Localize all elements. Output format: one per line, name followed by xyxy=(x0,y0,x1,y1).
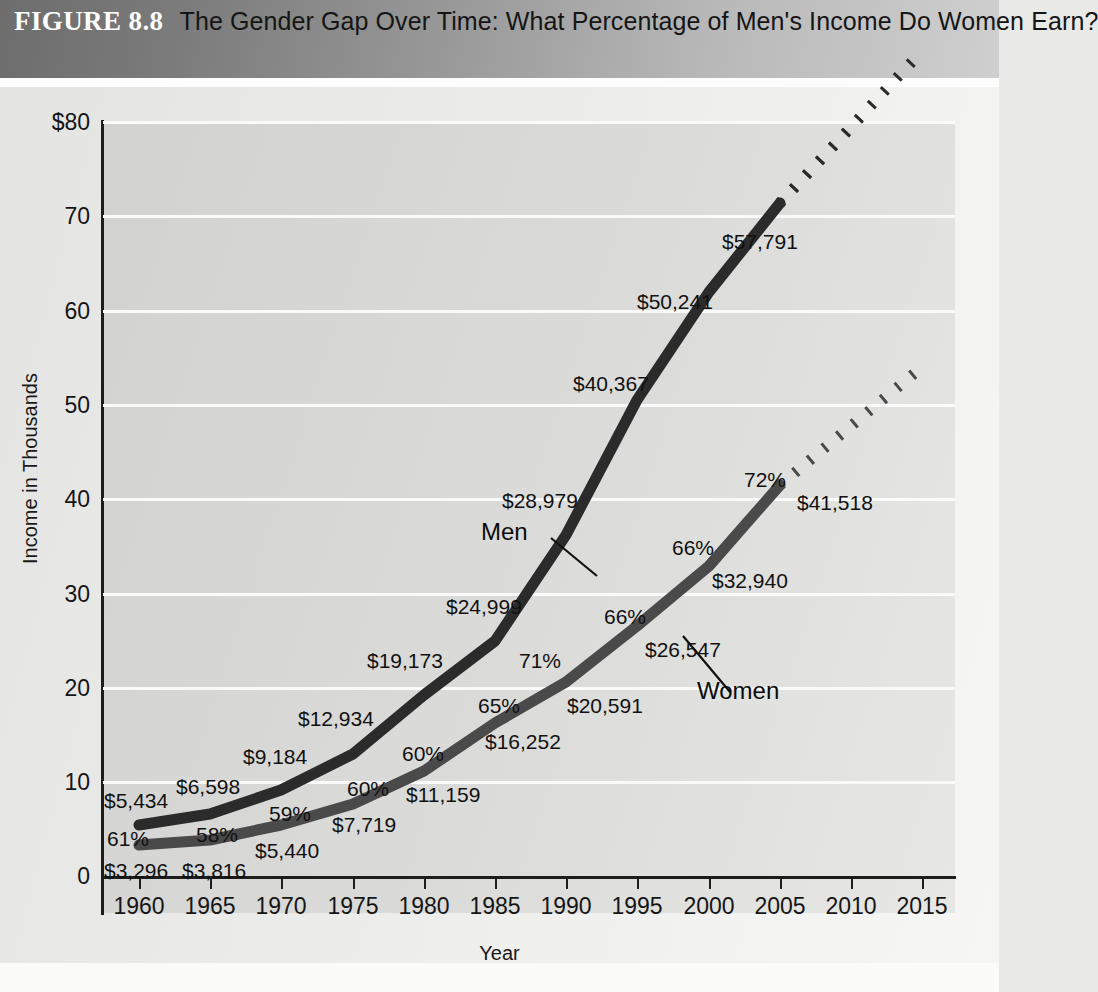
men-value-label-1960: $5,434 xyxy=(104,789,168,813)
figure-header-text: FIGURE 8.8The Gender Gap Over Time: What… xyxy=(14,4,985,38)
women-value-label-1985: $16,252 xyxy=(485,730,561,754)
percent-label-1960: 61% xyxy=(107,827,149,851)
men-value-label-2005: $57,791 xyxy=(722,230,798,254)
men-value-label-1970: $9,184 xyxy=(243,745,307,769)
women-value-label-1960: $3,296 xyxy=(104,859,168,883)
series-label-men: Men xyxy=(481,518,528,546)
men-value-label-1965: $6,598 xyxy=(176,775,240,799)
women-value-label-2000: $32,940 xyxy=(712,569,788,593)
percent-label-1995: 66% xyxy=(604,605,646,629)
men-value-label-1980: $19,173 xyxy=(367,649,443,673)
women-value-label-2005: $41,518 xyxy=(797,491,873,515)
percent-label-1975: 60% xyxy=(347,777,389,801)
series-label-women: Women xyxy=(697,677,779,705)
men-value-label-2000: $50,241 xyxy=(637,290,713,314)
percent-label-1990: 71% xyxy=(519,649,561,673)
figure-number: FIGURE 8.8 xyxy=(14,6,164,36)
men-value-label-1995: $40,367 xyxy=(573,372,649,396)
women-value-label-1980: $11,159 xyxy=(406,783,480,807)
men-value-label-1985: $24,999 xyxy=(446,595,522,619)
women-value-label-1970: $5,440 xyxy=(255,839,319,863)
percent-label-1980: 60% xyxy=(402,742,444,766)
chart-body: $80 70 60 50 40 30 20 10 0 1960 1965 197… xyxy=(0,87,999,992)
percent-label-2005: 72% xyxy=(744,468,786,492)
figure-title: The Gender Gap Over Time: What Percentag… xyxy=(180,7,1098,35)
figure-bottom-margin xyxy=(0,963,999,992)
women-value-label-1995: $26,547 xyxy=(645,638,721,662)
percent-label-1985: 65% xyxy=(478,694,520,718)
women-value-label-1990: $20,591 xyxy=(567,694,643,718)
percent-label-2000: 66% xyxy=(672,536,714,560)
header-divider xyxy=(0,78,999,87)
percent-label-1970: 59% xyxy=(269,802,311,826)
men-value-label-1975: $12,934 xyxy=(298,707,374,731)
percent-label-1965: 58% xyxy=(196,823,238,847)
women-value-label-1975: $7,719 xyxy=(332,813,396,837)
men-value-label-1990: $28,979 xyxy=(502,489,578,513)
women-value-label-1965: $3,816 xyxy=(182,859,246,883)
figure-header-bar: FIGURE 8.8The Gender Gap Over Time: What… xyxy=(0,0,999,78)
